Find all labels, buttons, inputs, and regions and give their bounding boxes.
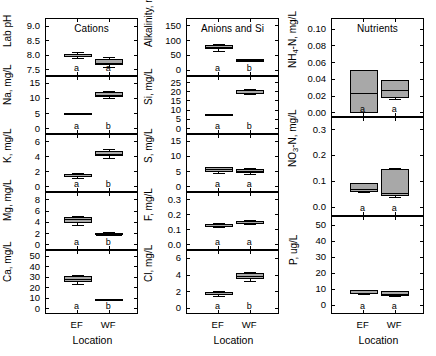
ytick-mark [187, 141, 190, 142]
panel-cl-mg-l [186, 250, 279, 314]
whisker-cap-lower [389, 296, 401, 297]
ytick-mark [187, 100, 190, 101]
ytick-mark [46, 113, 49, 114]
ytick-mark [187, 70, 190, 71]
box-EF [205, 114, 233, 117]
xcat-label-WF: WF [242, 319, 257, 330]
whisker-cap-lower [213, 51, 225, 52]
ytick-mark [134, 83, 137, 84]
ytick-label: 0.00 [308, 106, 327, 117]
ytick-label: 100 [165, 34, 181, 45]
median-line [96, 154, 122, 155]
xaxis-title: Location [73, 334, 113, 346]
xtick-mark [363, 19, 364, 22]
whisker-cap-lower [72, 225, 84, 226]
median-line [65, 219, 91, 220]
ytick-label: 10 [29, 92, 40, 103]
ytick-mark [187, 214, 190, 215]
ytick-mark [420, 305, 423, 306]
median-line [206, 169, 232, 170]
xcat-label-EF: EF [357, 319, 369, 330]
xtick-mark [218, 77, 219, 80]
ytick-label: 0 [35, 122, 40, 133]
panel-na-mg-l [45, 76, 138, 134]
ytick-mark [275, 119, 278, 120]
ytick-mark [420, 29, 423, 30]
whisker-cap-lower [358, 192, 370, 193]
group-letter: a [215, 63, 220, 73]
median-line [65, 56, 91, 57]
xtick-mark [250, 251, 251, 254]
ytick-mark [187, 110, 190, 111]
box-WF [381, 291, 409, 295]
box-EF [205, 224, 233, 227]
ytick-label: 5 [176, 165, 181, 176]
ytick-mark [134, 233, 137, 234]
ytick-mark [275, 308, 278, 309]
panel-no [331, 117, 424, 216]
column-title-2: Anions and Si [187, 23, 278, 34]
ytick-mark [420, 241, 423, 242]
ytick-mark [134, 308, 137, 309]
ytick-mark [332, 79, 335, 80]
xtick-mark [109, 135, 110, 138]
group-letter: a [74, 237, 79, 247]
box-EF [64, 54, 92, 57]
ytick-label: 0 [35, 238, 40, 249]
ytick-mark [46, 83, 49, 84]
ytick-label: 30 [29, 271, 40, 282]
ytick-mark [275, 82, 278, 83]
ytick-label: 0.3 [168, 193, 181, 204]
xtick-mark [77, 77, 78, 80]
xtick-mark [77, 135, 78, 138]
ytick-mark [134, 55, 137, 56]
ytick-mark [134, 171, 137, 172]
ytick-label: 0.0 [313, 201, 326, 212]
whisker-cap-lower [103, 158, 115, 159]
group-letter: a [215, 301, 220, 311]
ytick-mark [46, 26, 49, 27]
xtick-mark [218, 193, 219, 196]
ytick-label: 0.3 [313, 123, 326, 134]
ytick-mark [332, 96, 335, 97]
ytick-mark [187, 244, 190, 245]
ytick-mark [134, 26, 137, 27]
xtick-mark [250, 19, 251, 22]
ytick-mark [46, 171, 49, 172]
group-letter: b [106, 179, 111, 189]
ytick-mark [275, 291, 278, 292]
panel-f-mg-l [186, 192, 279, 250]
box-WF [95, 151, 123, 156]
ytick-mark [46, 69, 49, 70]
ytick-mark [420, 155, 423, 156]
ytick-mark [134, 113, 137, 114]
ytick-mark [275, 141, 278, 142]
box-WF [95, 233, 123, 236]
ytick-label: 10 [29, 292, 40, 303]
boxplot-figure: Cations7.58.08.59.0Lab pHaa051015Na, mg/… [0, 0, 436, 356]
whisker-cap-lower [244, 174, 256, 175]
xcat-label-EF: EF [212, 319, 224, 330]
whisker-cap-lower [389, 99, 401, 100]
group-letter: a [215, 121, 220, 131]
xtick-mark [109, 193, 110, 196]
ytick-mark [187, 128, 190, 129]
box-EF [350, 183, 378, 192]
ytick-label: 0 [321, 299, 326, 310]
ytick-label: 15 [170, 135, 181, 146]
panel-alkalinity-mg-l: Anions and Si [186, 18, 279, 76]
ytick-label: 0.1 [313, 175, 326, 186]
ytick-mark [332, 129, 335, 130]
whisker-cap-lower [213, 173, 225, 174]
group-letter: b [106, 121, 111, 131]
median-line [351, 189, 377, 190]
ytick-mark [275, 244, 278, 245]
ytick-label: 50 [315, 219, 326, 230]
ytick-mark [46, 128, 49, 129]
ytick-mark [46, 199, 49, 200]
whisker-cap-lower [244, 224, 256, 225]
median-line [206, 47, 232, 48]
ytick-mark [134, 186, 137, 187]
ytick-label: 0 [176, 64, 181, 75]
median-line [206, 294, 232, 295]
